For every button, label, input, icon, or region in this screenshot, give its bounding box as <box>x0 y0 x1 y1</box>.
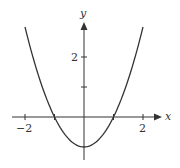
y-tick-label-2: 2 <box>71 51 78 64</box>
x-tick-label-neg2: −2 <box>16 122 32 135</box>
x-axis-label: x <box>165 110 172 123</box>
x-axis-arrow-icon <box>154 114 162 121</box>
y-axis-arrow-icon <box>81 22 88 30</box>
parabola-plot: y x −2 2 2 <box>0 0 180 168</box>
x-tick-label-2: 2 <box>139 122 146 135</box>
y-axis-label: y <box>79 7 87 20</box>
